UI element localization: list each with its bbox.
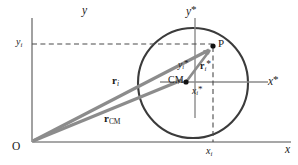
coord-y-i-star-asterisk: * bbox=[184, 58, 189, 68]
coord-label-x-i: xi bbox=[206, 146, 212, 158]
x-axis-label: x bbox=[285, 144, 290, 156]
y-star-axis-label-star: * bbox=[191, 3, 196, 15]
y-axis-label: y bbox=[82, 5, 87, 17]
cm-dot bbox=[183, 79, 188, 84]
vector-r-i-star-label: ri* bbox=[200, 60, 211, 72]
vector-r-cm-arrow bbox=[33, 80, 182, 141]
coord-label-y-i-star: yi* bbox=[178, 59, 189, 71]
coord-label-y-i: yi bbox=[16, 37, 22, 49]
x-star-axis-label-star: * bbox=[273, 73, 278, 85]
lab-frame-axes bbox=[32, 18, 291, 142]
vector-r-cm-subscript: CM bbox=[109, 117, 121, 126]
coord-x-i-star-asterisk: * bbox=[198, 84, 203, 94]
center-of-mass-label: CM bbox=[168, 75, 184, 85]
coord-y-i-subscript: i bbox=[20, 41, 22, 48]
origin-label: O bbox=[12, 141, 20, 153]
diagram-canvas bbox=[0, 0, 298, 165]
vector-r-i-label: ri bbox=[112, 75, 119, 88]
particle-point-p-label: P bbox=[218, 38, 224, 49]
vector-r-i-star-asterisk: * bbox=[206, 59, 211, 69]
coord-x-i-subscript: i bbox=[210, 150, 212, 157]
p-dot bbox=[210, 43, 215, 48]
x-star-axis-label: x* bbox=[268, 74, 279, 87]
coord-label-x-i-star: xi* bbox=[192, 85, 203, 97]
vector-r-i-subscript: i bbox=[117, 79, 119, 88]
vector-r-cm-label: rCM bbox=[104, 113, 121, 126]
y-star-axis-label: y* bbox=[186, 4, 197, 17]
figure-container: y x O y* x* CM P ri rCM ri* yi xi yi* xi… bbox=[0, 0, 298, 165]
